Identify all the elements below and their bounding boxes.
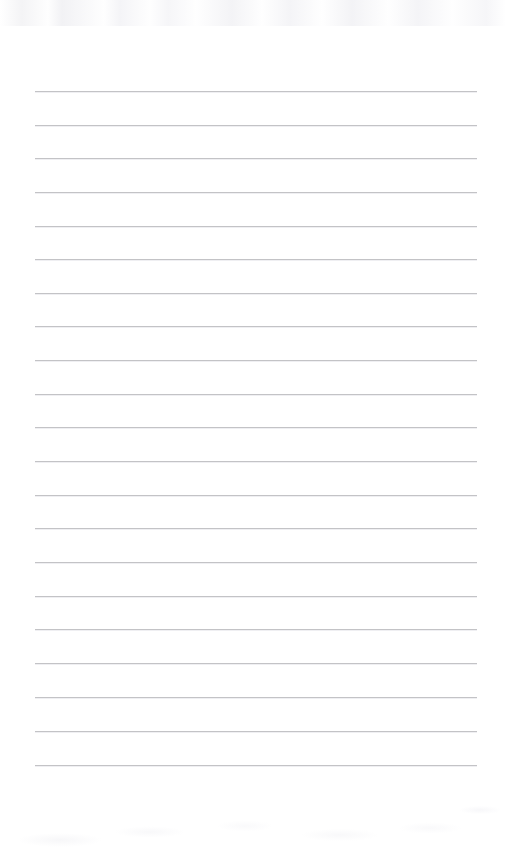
writing-row[interactable] (35, 228, 477, 259)
writing-row[interactable] (35, 328, 477, 360)
writing-row[interactable] (35, 194, 477, 226)
scan-noise-bottom-area (0, 790, 506, 853)
rule-line (35, 461, 477, 462)
rule-line (35, 360, 477, 361)
writing-row[interactable] (35, 631, 477, 663)
rule-line (35, 697, 477, 698)
rule-line (35, 125, 477, 126)
writing-row[interactable] (35, 665, 477, 697)
rule-line (35, 562, 477, 563)
writing-row[interactable] (35, 362, 477, 394)
writing-row[interactable] (35, 261, 477, 293)
rule-line (35, 731, 477, 732)
writing-row[interactable] (35, 59, 477, 91)
rule-line (35, 528, 477, 529)
scan-noise-top-band (0, 0, 506, 26)
writing-row[interactable] (35, 699, 477, 731)
rule-line (35, 192, 477, 193)
writing-row[interactable] (35, 429, 477, 461)
writing-row[interactable] (35, 463, 477, 495)
rule-line (35, 91, 477, 92)
writing-row[interactable] (35, 497, 477, 528)
rule-line (35, 293, 477, 294)
writing-row[interactable] (35, 160, 477, 192)
rule-line (35, 326, 477, 327)
writing-row[interactable] (35, 127, 477, 158)
writing-row[interactable] (35, 530, 477, 562)
rule-line (35, 394, 477, 395)
rule-line (35, 495, 477, 496)
rule-line (35, 663, 477, 664)
writing-row[interactable] (35, 93, 477, 125)
rule-line (35, 765, 477, 766)
writing-row[interactable] (35, 396, 477, 427)
rule-line (35, 427, 477, 428)
writing-row[interactable] (35, 733, 477, 765)
rule-line (35, 158, 477, 159)
rule-line (35, 596, 477, 597)
writing-row[interactable] (35, 564, 477, 596)
rule-line (35, 226, 477, 227)
rule-line (35, 259, 477, 260)
writing-row[interactable] (35, 295, 477, 326)
writing-row[interactable] (35, 598, 477, 629)
rule-line (35, 629, 477, 630)
scanned-page (0, 0, 506, 853)
